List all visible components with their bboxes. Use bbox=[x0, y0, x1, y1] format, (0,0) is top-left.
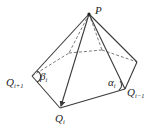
label-p: P bbox=[94, 4, 102, 16]
angle-alpha-arc-icon bbox=[119, 81, 122, 90]
edge-p-back-right bbox=[89, 14, 137, 62]
label-q-iminus1: Qi−1 bbox=[127, 86, 144, 99]
edge-back-left-back-mid bbox=[69, 50, 102, 53]
edge-p-qiplus1 bbox=[32, 14, 89, 76]
edge-qi-qiminus1 bbox=[60, 89, 125, 108]
edge-p-qi-arrow bbox=[61, 14, 89, 106]
edge-qiminus1-back-right bbox=[125, 62, 137, 89]
edge-p-back-mid bbox=[89, 14, 102, 50]
pyramid-diagram: P Qi+1 Qi Qi−1 βi αi bbox=[0, 0, 153, 127]
label-beta: βi bbox=[39, 70, 47, 83]
edge-p-qiminus1 bbox=[89, 14, 125, 89]
label-alpha: αi bbox=[108, 76, 116, 89]
label-q-iplus1: Qi+1 bbox=[6, 76, 23, 89]
visible-edges bbox=[32, 14, 137, 108]
apex-point bbox=[87, 12, 90, 15]
hidden-edges bbox=[32, 14, 137, 76]
label-q-i: Qi bbox=[55, 112, 65, 125]
